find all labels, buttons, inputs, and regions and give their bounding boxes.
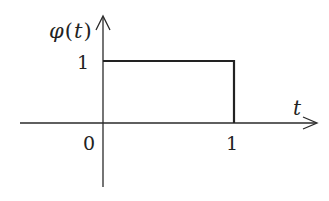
y-tick-label-1: 1	[77, 51, 89, 73]
y-axis-label: φ(t)	[49, 19, 92, 43]
y-axis-paren-open: (	[65, 19, 73, 43]
plot-canvas: φ(t) 1 0 1 t	[0, 0, 329, 201]
x-tick-label-1: 1	[226, 132, 238, 154]
pulse-function-figure: φ(t) 1 0 1 t	[0, 0, 329, 201]
y-axis-func: φ	[49, 19, 64, 43]
pulse-curve	[103, 61, 234, 123]
y-axis-var: t	[74, 19, 83, 43]
x-tick-label-0: 0	[83, 132, 95, 154]
x-axis-label: t	[293, 96, 302, 120]
y-axis-paren-close: )	[83, 19, 91, 43]
